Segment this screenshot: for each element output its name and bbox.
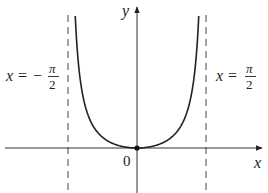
function-graph: y x 0 x = − π 2 x = π 2: [0, 0, 268, 193]
left-label-two: 2: [49, 77, 56, 92]
right-label-two: 2: [246, 77, 253, 92]
origin-label: 0: [123, 153, 131, 169]
left-label-minus: −: [33, 67, 42, 84]
x-axis-label: x: [253, 154, 261, 171]
right-label-x: x: [215, 67, 223, 84]
left-label-pi: π: [49, 61, 56, 76]
right-asymptote-label: x = π 2: [215, 61, 256, 92]
y-axis-label: y: [120, 2, 130, 20]
left-label-x: x: [5, 67, 13, 84]
left-label-eq: =: [18, 67, 27, 84]
left-asymptote-label: x = − π 2: [5, 61, 59, 92]
origin-point: [134, 145, 139, 150]
right-label-eq: =: [228, 67, 237, 84]
right-label-pi: π: [246, 61, 253, 76]
